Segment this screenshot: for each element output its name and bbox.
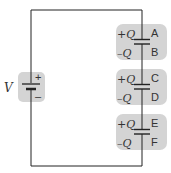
plate-label-e: E [151,117,158,129]
battery-plus-sign: + [35,71,41,83]
charge-label-b: –Q [117,47,132,60]
plate-label-b: B [151,46,158,58]
plate-label-f: F [151,136,158,148]
plate-label-d: D [151,91,159,103]
charge-label-f: –Q [117,137,132,150]
charge-label-c: +Q [117,73,135,86]
plate-label-a: A [151,27,159,39]
charge-label-a: +Q [117,28,135,41]
voltage-label: V [4,81,14,95]
circuit-diagram: V + – +Q –Q A B +Q –Q C D +Q –Q E F [0,0,171,173]
battery-minus-sign: – [35,90,42,102]
charge-label-d: –Q [117,92,132,105]
plate-label-c: C [151,72,159,84]
charge-label-e: +Q [117,118,135,131]
